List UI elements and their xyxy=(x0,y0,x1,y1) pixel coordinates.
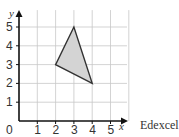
svg-text:3: 3 xyxy=(71,123,78,137)
svg-text:5: 5 xyxy=(6,20,13,34)
svg-text:2: 2 xyxy=(53,123,60,137)
y-axis-label: y xyxy=(8,7,14,19)
x-axis-label: x xyxy=(118,120,124,132)
svg-text:5: 5 xyxy=(108,123,115,137)
source-label: Edexcel xyxy=(140,118,179,133)
svg-text:4: 4 xyxy=(89,123,96,137)
svg-text:4: 4 xyxy=(6,39,13,53)
svg-text:0: 0 xyxy=(6,123,13,137)
svg-text:1: 1 xyxy=(6,95,13,109)
svg-text:3: 3 xyxy=(6,58,13,72)
svg-text:1: 1 xyxy=(34,123,41,137)
coordinate-grid: 01234512345 x y xyxy=(0,0,179,137)
y-axis-arrow-icon xyxy=(16,10,23,17)
svg-text:2: 2 xyxy=(6,76,13,90)
